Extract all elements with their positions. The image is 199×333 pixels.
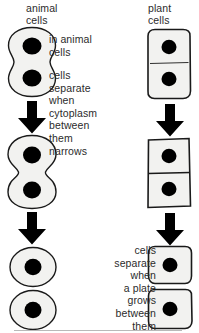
plant-column-heading: plant cells: [148, 3, 171, 26]
bottom-divider: [14, 330, 182, 331]
plant-stage-cell-forming-plate: [145, 28, 193, 100]
nucleus: [23, 69, 42, 86]
cell-plate-complete: [148, 173, 190, 174]
nucleus: [162, 40, 177, 54]
nucleus: [163, 258, 178, 272]
animal-caption-in-animal-cells: in animal cells: [49, 33, 92, 58]
plant-arrow-2-icon: [155, 213, 185, 246]
nucleus: [162, 72, 177, 86]
nucleus: [162, 149, 177, 163]
animal-arrow-1-icon: [17, 101, 47, 134]
animal-arrow-2-icon: [17, 212, 47, 245]
animal-stage-daughter-cell-bottom: [8, 289, 58, 331]
animal-caption-separation: cells separate when cytoplasm between th…: [49, 69, 97, 157]
nucleus: [23, 147, 41, 164]
plant-caption-separation: cells separate when a plate grows betwee…: [94, 244, 156, 332]
plant-stage-cell-complete-plate: [145, 137, 193, 209]
nucleus: [23, 37, 42, 54]
nucleus: [23, 182, 41, 199]
animal-stage-daughter-cell-top: [8, 246, 58, 288]
plant-arrow-1-icon: [155, 104, 185, 137]
nucleus: [25, 302, 42, 318]
nucleus: [162, 182, 177, 196]
nucleus: [25, 259, 42, 275]
nucleus: [163, 302, 178, 316]
animal-column-heading: animal cells: [26, 3, 58, 26]
